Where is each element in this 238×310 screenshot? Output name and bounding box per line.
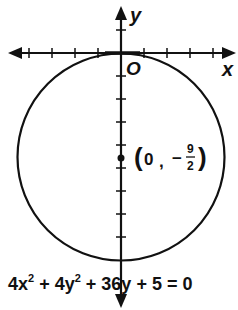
y-axis-label: y [129, 4, 142, 26]
svg-text:9: 9 [187, 142, 194, 156]
origin-label: O [126, 58, 141, 79]
x-axis-label: x [221, 58, 234, 80]
svg-text:0: 0 [144, 150, 153, 169]
svg-text:2: 2 [187, 159, 194, 173]
svg-text:): ) [198, 142, 207, 172]
center-point [118, 155, 125, 162]
y-axis-up-arrow-icon [115, 6, 127, 20]
x-axis-left-arrow-icon [8, 47, 22, 59]
svg-text:,: , [159, 152, 164, 171]
svg-text:(: ( [134, 142, 143, 172]
svg-text:4x2 + 4y2 + 36y + 5 = 0: 4x2 + 4y2 + 36y + 5 = 0 [8, 272, 192, 294]
circle-graph: y x O ( 0 , − 9 2 ) 4x2 + 4y2 + 36y + 5 … [0, 0, 238, 310]
center-label: ( 0 , − 9 2 ) [134, 142, 207, 173]
svg-text:−: − [172, 149, 182, 168]
equation: 4x2 + 4y2 + 36y + 5 = 0 [8, 272, 192, 294]
y-axis-down-arrow-icon [115, 294, 127, 308]
